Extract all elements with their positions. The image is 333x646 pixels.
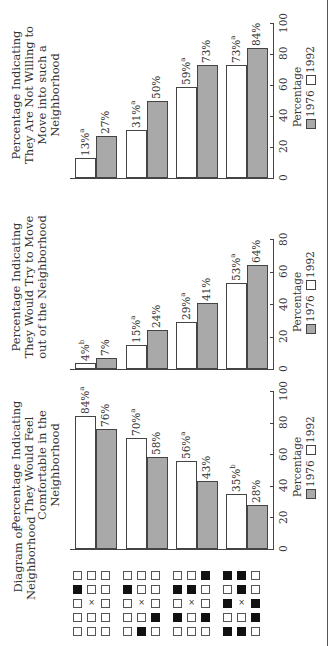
bar-1992 xyxy=(226,494,247,549)
bar-value-label: 76% xyxy=(99,404,111,427)
legend: 1976 1992 xyxy=(304,47,316,132)
tick-label: 80 xyxy=(277,416,289,429)
tick-mark xyxy=(270,272,274,273)
white-household-cell xyxy=(223,613,232,622)
bar-1992 xyxy=(226,65,247,178)
tick-label: 40 xyxy=(277,109,289,122)
bar-1976 xyxy=(96,358,117,369)
white-household-cell xyxy=(87,571,96,580)
bar-value-label: 73%a xyxy=(229,35,242,63)
tick-label: 100 xyxy=(277,381,289,401)
bar-value-label: 24% xyxy=(150,305,162,328)
black-household-cell xyxy=(251,599,260,608)
tick-label: 20 xyxy=(277,330,289,343)
respondent-home-cell: × xyxy=(237,599,246,608)
white-household-cell xyxy=(151,571,160,580)
tick-label: 0 xyxy=(277,546,289,553)
respondent-home-cell: × xyxy=(187,599,196,608)
legend: 1976 1992 xyxy=(304,416,316,501)
bar-value-label: 58% xyxy=(150,432,162,455)
bar-1976 xyxy=(147,457,168,549)
white-household-cell xyxy=(151,627,160,636)
tick-mark xyxy=(270,517,274,518)
tick-mark xyxy=(270,423,274,424)
bar-1976 xyxy=(96,429,117,549)
tick-mark xyxy=(270,178,274,179)
black-household-cell xyxy=(137,627,146,636)
white-household-cell xyxy=(187,627,196,636)
tick-label: 20 xyxy=(277,510,289,523)
tick-mark xyxy=(270,116,274,117)
black-household-cell xyxy=(237,571,246,580)
tick-mark xyxy=(270,369,274,370)
black-household-cell xyxy=(151,613,160,622)
bar-1992 xyxy=(75,158,96,178)
black-household-cell xyxy=(237,585,246,594)
white-household-cell xyxy=(173,599,182,608)
bar-value-label: 59%a xyxy=(179,57,192,85)
bar-value-label: 15%a xyxy=(129,315,142,343)
white-household-cell xyxy=(87,627,96,636)
bar-value-label: 50% xyxy=(150,75,162,98)
white-household-cell xyxy=(173,627,182,636)
white-household-cell xyxy=(187,613,196,622)
white-household-cell xyxy=(251,585,260,594)
white-household-cell xyxy=(223,585,232,594)
axis-label: Percentage xyxy=(291,67,303,127)
axis-label: Percentage xyxy=(291,271,303,331)
white-household-cell xyxy=(151,599,160,608)
tick-label: 80 xyxy=(277,232,289,245)
legend-swatch-1976 xyxy=(306,324,316,334)
bar-value-label: 56%a xyxy=(179,431,192,459)
white-household-cell xyxy=(201,627,210,636)
tick-mark xyxy=(270,147,274,148)
tick-mark xyxy=(270,23,274,24)
bar-value-label: 31%a xyxy=(129,100,142,128)
black-household-cell xyxy=(201,571,210,580)
white-household-cell xyxy=(237,613,246,622)
tick-mark xyxy=(270,391,274,392)
bar-1976 xyxy=(197,65,218,178)
bar-1992 xyxy=(176,461,197,549)
bar-value-label: 70%a xyxy=(129,409,142,437)
white-household-cell xyxy=(73,571,82,580)
tick-label: 0 xyxy=(277,366,289,373)
bar-1992 xyxy=(126,345,147,369)
white-household-cell xyxy=(201,599,210,608)
bar-value-label: 28% xyxy=(250,479,262,502)
bar-value-label: 64% xyxy=(250,240,262,263)
bar-value-label: 27% xyxy=(99,111,111,134)
tick-mark xyxy=(270,486,274,487)
bar-value-label: 73% xyxy=(200,40,212,63)
white-household-cell xyxy=(101,585,110,594)
bar-1992 xyxy=(176,87,197,178)
value-axis xyxy=(273,23,274,178)
tick-label: 100 xyxy=(277,13,289,33)
legend-swatch-1992 xyxy=(306,75,316,85)
black-household-cell xyxy=(223,627,232,636)
panel-title: Percentage Indicating They Are Not Willi… xyxy=(10,20,62,170)
bar-value-label: 84% xyxy=(250,22,262,45)
tick-mark xyxy=(270,85,274,86)
bar-1976 xyxy=(247,505,268,549)
bar-value-label: 41% xyxy=(200,277,212,300)
bar-baseline xyxy=(70,178,273,179)
bar-1976 xyxy=(247,48,268,178)
tick-label: 40 xyxy=(277,479,289,492)
bar-value-label: 4%b xyxy=(78,339,91,360)
panel-title: Percentage Indicating They Would Feel Co… xyxy=(10,390,62,540)
black-household-cell xyxy=(223,571,232,580)
bar-1992 xyxy=(176,322,197,369)
white-household-cell xyxy=(251,627,260,636)
bar-value-label: 35%b xyxy=(229,464,242,492)
white-household-cell xyxy=(101,627,110,636)
white-household-cell xyxy=(173,571,182,580)
white-household-cell xyxy=(123,571,132,580)
black-household-cell xyxy=(201,613,210,622)
tick-mark xyxy=(270,549,274,550)
tick-label: 40 xyxy=(277,297,289,310)
tick-mark xyxy=(270,54,274,55)
bar-1992 xyxy=(75,416,96,549)
bar-value-label: 84%a xyxy=(78,387,91,415)
panel-title: Percentage Indicating They Would Try to … xyxy=(10,212,49,362)
